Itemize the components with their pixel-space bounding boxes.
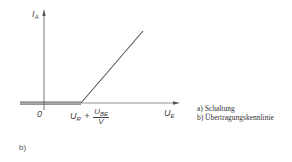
threshold-label: UR + UBE V [70, 108, 109, 126]
fraction-denominator: V [93, 118, 109, 126]
threshold-plus: + [84, 111, 89, 121]
x-axis-label: UE [164, 109, 175, 119]
figure-caption: a) Schaltung b) Übertragungskennlinie [197, 104, 274, 122]
y-axis-label-sub: A [35, 14, 39, 20]
y-axis-label: IA [32, 10, 39, 20]
threshold-fraction: UBE V [93, 108, 109, 126]
x-axis-arrow-icon [173, 101, 180, 104]
figure-label: b) [19, 143, 26, 152]
x-axis-label-sub: E [171, 113, 175, 119]
transfer-characteristic-plot [0, 0, 292, 162]
characteristic-rising [81, 31, 143, 103]
y-axis-arrow-icon [42, 9, 45, 16]
threshold-prefix-sub: R [77, 116, 81, 122]
origin-label: 0 [37, 110, 42, 119]
caption-line-a: a) Schaltung [197, 104, 274, 113]
caption-line-b: b) Übertragungskennlinie [197, 113, 274, 122]
